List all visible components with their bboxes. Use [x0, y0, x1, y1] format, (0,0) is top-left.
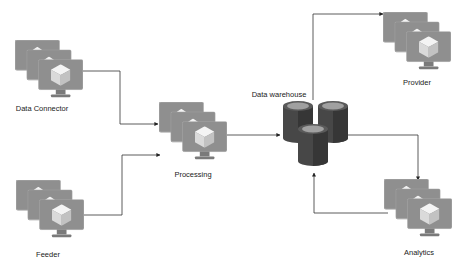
edge-data-connector-to-processing [82, 71, 158, 124]
processing-server-stack-icon[interactable] [159, 102, 227, 159]
edge-analytics-to-warehouse [314, 173, 388, 213]
data-connector-server-stack-icon[interactable] [15, 40, 83, 97]
data-warehouse-label: Data warehouse [252, 90, 307, 99]
provider-server-stack-icon[interactable] [383, 12, 451, 69]
connectors [82, 14, 418, 215]
feeder-label: Feeder [36, 250, 60, 259]
analytics-label: Analytics [404, 248, 434, 257]
edge-warehouse-to-provider [313, 14, 383, 100]
edge-warehouse-to-analytics [348, 135, 418, 180]
diagram-canvas [0, 0, 469, 274]
data-warehouse-database-icon[interactable] [283, 101, 348, 166]
provider-label: Provider [403, 78, 431, 87]
feeder-server-stack-icon[interactable] [16, 180, 84, 237]
edge-feeder-to-processing [82, 155, 160, 215]
processing-label: Processing [174, 170, 211, 179]
analytics-server-stack-icon[interactable] [384, 179, 452, 236]
data-connector-label: Data Connector [16, 104, 69, 113]
